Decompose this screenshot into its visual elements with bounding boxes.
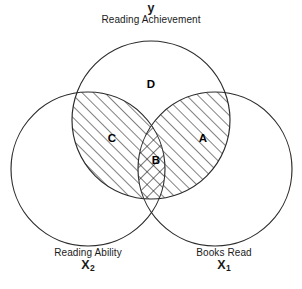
venn-diagram: D C A B y Reading Achievement Reading Ab…: [0, 0, 302, 289]
caption-books-read: Books Read X1: [148, 248, 300, 272]
venn-diagram-canvas: [0, 0, 302, 289]
caption-variable-x2-text: X: [81, 258, 90, 272]
caption-reading-ability: Reading Ability X2: [12, 248, 164, 272]
region-label-d: D: [147, 78, 156, 90]
caption-reading-achievement: y Reading Achievement: [0, 2, 302, 26]
region-label-c: C: [108, 132, 117, 144]
caption-variable-x1-text: X: [217, 258, 226, 272]
caption-variable-x2: X2: [12, 259, 164, 272]
caption-variable-y-text: y: [147, 1, 154, 15]
caption-variable-x1: X1: [148, 259, 300, 272]
caption-name-reading-achievement: Reading Achievement: [0, 15, 302, 26]
caption-variable-x1-subscript: 1: [226, 263, 231, 273]
region-label-a: A: [199, 132, 208, 144]
region-label-b: B: [152, 154, 161, 166]
caption-variable-x2-subscript: 2: [90, 263, 95, 273]
